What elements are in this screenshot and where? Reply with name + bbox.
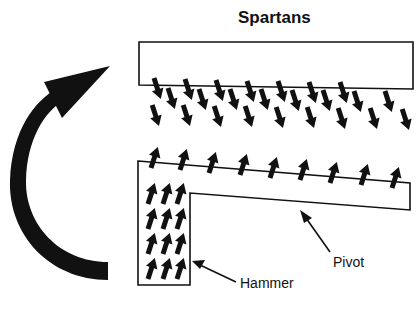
hammer-label: Hammer [240,275,294,291]
rotation-curved-arrow-icon [10,66,110,280]
pivot-pointer-arrow-icon [300,210,330,252]
hammer-pointer-arrow-icon [192,260,236,282]
pivot-top-up-arrows [145,145,404,190]
pivot-label: Pivot [333,254,364,270]
hammer-up-arrows [142,181,189,281]
